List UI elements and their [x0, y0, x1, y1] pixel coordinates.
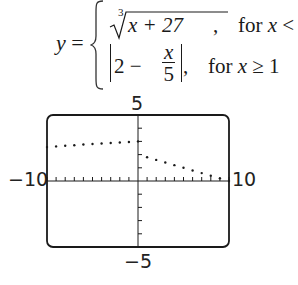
calculator-graph: [0, 0, 298, 285]
graph-axes: [47, 115, 229, 247]
